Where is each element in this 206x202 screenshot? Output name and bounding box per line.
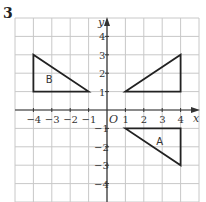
shape-label: A <box>156 136 163 147</box>
y-tick-label: −2 <box>94 142 109 153</box>
coordinate-grid: BA −4−3−2−112344321−1−2−3−4Oxy <box>0 0 206 202</box>
tick-labels: −4−3−2−112344321−1−2−3−4Oxy <box>26 16 200 190</box>
y-tick-label: −1 <box>94 123 109 134</box>
x-tick-label: −2 <box>63 114 78 125</box>
y-axis-label: y <box>97 16 105 29</box>
x-tick-label: 4 <box>178 114 184 125</box>
y-tick-label: 3 <box>99 50 105 61</box>
x-tick-label: 1 <box>122 114 128 125</box>
x-tick-label: 3 <box>159 114 165 125</box>
y-tick-label: 4 <box>99 31 105 42</box>
origin-label: O <box>109 113 118 126</box>
x-tick-label: −4 <box>26 114 41 125</box>
shape-label: B <box>46 74 53 85</box>
x-axis-label: x <box>193 112 200 125</box>
x-tick-label: 2 <box>141 114 147 125</box>
y-tick-label: −4 <box>94 179 109 190</box>
y-tick-label: 1 <box>99 87 105 98</box>
y-tick-label: 2 <box>99 68 105 79</box>
x-tick-label: −3 <box>45 114 60 125</box>
y-tick-label: −3 <box>94 160 109 171</box>
axes <box>15 17 200 202</box>
